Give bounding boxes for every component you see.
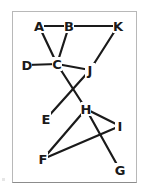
edge-f-i [43,126,120,159]
node-label: G [115,163,126,178]
node-d: D [22,58,33,73]
node-f: F [38,152,48,167]
node-c: C [52,57,62,72]
node-label: A [34,19,44,34]
node-i: I [115,119,125,134]
node-h: H [81,102,92,117]
node-label: D [22,58,33,73]
node-label: F [39,152,48,167]
edges-layer [27,26,120,170]
node-e: E [41,112,51,127]
node-label: H [81,102,92,117]
graph-canvas: ABKDCJEHIFG [0,0,142,186]
node-j: J [85,63,95,78]
node-label: K [113,19,124,34]
node-b: B [64,19,74,34]
node-g: G [115,163,126,178]
node-label: C [52,57,62,72]
node-label: I [118,119,123,134]
node-a: A [34,19,44,34]
node-label: B [64,19,74,34]
node-label: J [87,63,93,78]
node-k: K [113,19,124,34]
node-label: E [42,112,51,127]
